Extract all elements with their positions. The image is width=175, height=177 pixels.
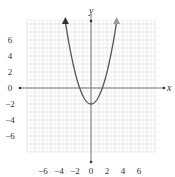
y-axis-bottom-end-dot <box>90 161 93 164</box>
y-tick-label: −4 <box>5 115 15 125</box>
x-tick-label: 2 <box>105 166 110 176</box>
y-tick-label: 4 <box>8 51 13 61</box>
x-tick-label: 0 <box>89 166 94 176</box>
y-axis-top-end-dot <box>90 20 93 23</box>
y-axis-label: y <box>88 5 94 16</box>
x-axis-right-end-dot <box>163 87 166 90</box>
y-tick-label: 0 <box>8 83 13 93</box>
y-tick-label: −2 <box>5 99 15 109</box>
y-tick-label: 2 <box>8 67 13 77</box>
x-axis-left-end-dot <box>19 87 22 90</box>
y-tick-label: 6 <box>8 35 13 45</box>
y-tick-label: −6 <box>5 131 15 141</box>
x-tick-label: 4 <box>121 166 126 176</box>
chart-canvas: xy−6−4−202466420−2−4−6 <box>0 0 175 177</box>
x-tick-label: −4 <box>54 166 64 176</box>
x-tick-label: −6 <box>38 166 48 176</box>
x-axis-label: x <box>166 82 172 93</box>
x-tick-label: −2 <box>70 166 80 176</box>
x-tick-label: 6 <box>137 166 142 176</box>
